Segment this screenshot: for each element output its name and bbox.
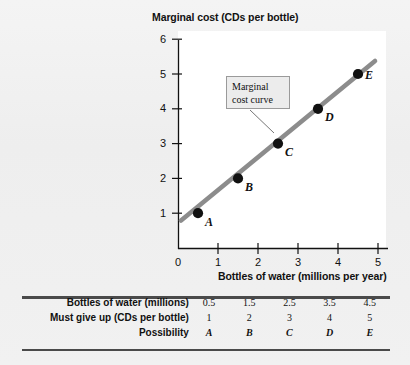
cell-bottles-e: 4.5 xyxy=(350,295,390,310)
cell-giveup-a: 1 xyxy=(189,310,229,325)
cell-possibility-e: E xyxy=(350,325,390,340)
point-label-c: C xyxy=(285,145,293,160)
cell-possibility-c: C xyxy=(269,325,309,340)
y-tick-label-1: 1 xyxy=(154,207,172,219)
data-point-e xyxy=(353,69,363,79)
x-axis-title: Bottles of water (millions per year) xyxy=(218,270,387,282)
point-label-a: A xyxy=(205,215,213,230)
figure-container: Marginal cost (CDs per bottle) xyxy=(0,0,410,365)
x-tick-label-5: 5 xyxy=(369,256,387,268)
table-row: Must give up (CDs per bottle) 1 2 3 4 5 xyxy=(22,310,390,325)
data-point-b xyxy=(233,173,243,183)
cell-bottles-b: 1.5 xyxy=(229,295,269,310)
x-tick-label-2: 2 xyxy=(249,256,267,268)
point-label-b: B xyxy=(245,180,253,195)
x-tick-label-4: 4 xyxy=(329,256,347,268)
cell-bottles-c: 2.5 xyxy=(269,295,309,310)
table-row: Bottles of water (millions) 0.5 1.5 2.5 … xyxy=(22,295,390,310)
x-tick-label-3: 3 xyxy=(289,256,307,268)
table-bottom-rule xyxy=(22,349,390,351)
callout-leader-line xyxy=(250,110,274,133)
y-tick-label-3: 3 xyxy=(154,137,172,149)
y-tick-label-5: 5 xyxy=(154,68,172,80)
data-point-a xyxy=(193,208,203,218)
cell-possibility-b: B xyxy=(229,325,269,340)
cell-giveup-c: 3 xyxy=(269,310,309,325)
cell-bottles-a: 0.5 xyxy=(189,295,229,310)
cell-giveup-d: 4 xyxy=(310,310,350,325)
cell-giveup-b: 2 xyxy=(229,310,269,325)
cell-bottles-d: 3.5 xyxy=(310,295,350,310)
callout-line-2: cost curve xyxy=(232,93,289,106)
table-row: Possibility A B C D E xyxy=(22,325,390,340)
point-label-e: E xyxy=(365,68,373,83)
cell-possibility-d: D xyxy=(310,325,350,340)
y-tick-label-4: 4 xyxy=(154,102,172,114)
y-axis-ticks xyxy=(172,39,182,213)
point-label-d: D xyxy=(325,110,334,125)
cell-possibility-a: A xyxy=(189,325,229,340)
data-point-c xyxy=(273,139,283,149)
data-table: Bottles of water (millions) 0.5 1.5 2.5 … xyxy=(22,295,390,340)
row-header-bottles: Bottles of water (millions) xyxy=(22,295,189,310)
y-tick-label-2: 2 xyxy=(154,172,172,184)
marginal-cost-curve-callout: Marginal cost curve xyxy=(226,76,290,109)
y-tick-label-6: 6 xyxy=(154,33,172,45)
data-point-d xyxy=(313,104,323,114)
cell-giveup-e: 5 xyxy=(350,310,390,325)
row-header-possibility: Possibility xyxy=(22,325,189,340)
row-header-give-up: Must give up (CDs per bottle) xyxy=(22,310,189,325)
x-tick-label-0: 0 xyxy=(169,256,187,268)
callout-line-1: Marginal xyxy=(232,80,289,93)
x-tick-label-1: 1 xyxy=(209,256,227,268)
